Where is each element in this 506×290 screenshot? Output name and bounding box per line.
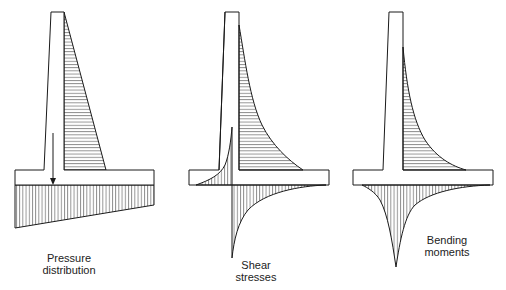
label-line: moments [407, 246, 487, 258]
label-line: distribution [29, 264, 109, 276]
pressure-label: Pressure distribution [29, 252, 109, 276]
label-line: Pressure [29, 252, 109, 264]
bending-label: Bending moments [407, 234, 487, 258]
shear-panel [189, 12, 329, 258]
stem-moment-diagram [403, 47, 466, 170]
label-line: stresses [216, 271, 296, 283]
toe-shear-diagram [196, 127, 232, 185]
base-shear-diagram [232, 185, 326, 258]
bending-panel [353, 12, 493, 267]
label-line: Shear [216, 259, 296, 271]
base-pressure-diagram [15, 185, 154, 228]
shear-label: Shear stresses [216, 259, 296, 283]
stem-pressure-diagram [64, 12, 106, 170]
pressure-panel [15, 12, 154, 228]
label-line: Bending [407, 234, 487, 246]
stem-shear-diagram [239, 25, 303, 170]
